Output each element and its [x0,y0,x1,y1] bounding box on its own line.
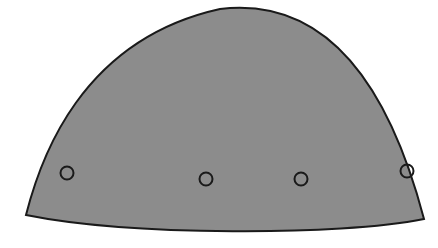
dome-shape [26,8,424,231]
dome-diagram [0,0,438,248]
